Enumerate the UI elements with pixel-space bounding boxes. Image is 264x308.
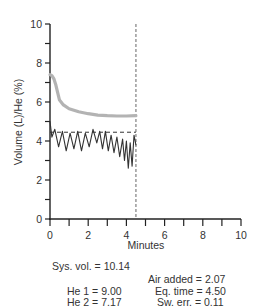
y-tick-label: 6 bbox=[36, 96, 42, 108]
volume-zigzag-line bbox=[50, 122, 136, 169]
x-axis-label: Minutes bbox=[128, 239, 165, 250]
series-group bbox=[50, 24, 136, 219]
chart-plot: 02468100246810 Volume (L)/He (%) Minutes bbox=[0, 0, 264, 250]
sw-err-stat: Sw. err. = 0.11 bbox=[157, 296, 224, 308]
y-tick-label: 0 bbox=[36, 213, 42, 225]
he2-stat: He 2 = 7.17 bbox=[67, 296, 122, 308]
axes: 02468100246810 bbox=[30, 18, 247, 241]
y-tick-label: 4 bbox=[36, 135, 42, 147]
sys-vol-stat: Sys. vol. = 10.14 bbox=[52, 260, 130, 272]
x-tick-label: 2 bbox=[85, 229, 91, 241]
x-tick-label: 10 bbox=[235, 229, 247, 241]
he-percent-line bbox=[50, 75, 136, 116]
y-tick-label: 10 bbox=[30, 18, 42, 30]
y-axis-label: Volume (L)/He (%) bbox=[12, 79, 24, 165]
x-tick-label: 8 bbox=[200, 229, 206, 241]
x-tick-label: 0 bbox=[47, 229, 53, 241]
y-tick-label: 8 bbox=[36, 57, 42, 69]
y-tick-label: 2 bbox=[36, 174, 42, 186]
air-added-stat: Air added = 2.07 bbox=[148, 273, 225, 285]
